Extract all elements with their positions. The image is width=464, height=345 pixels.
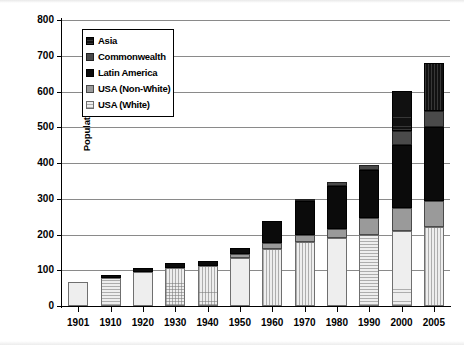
x-tick-1970 bbox=[305, 306, 306, 312]
y-axis-label-600: 600 bbox=[14, 87, 54, 97]
bar-segment-1930-usa-white bbox=[165, 268, 185, 306]
bar-segment-1910-usa-white bbox=[101, 278, 121, 306]
scan-edge-top bbox=[0, 0, 464, 3]
bar-segment-1940-latin-america bbox=[198, 261, 218, 266]
scan-edge-bottom bbox=[0, 341, 464, 345]
bar-segment-1980-usa-non-white bbox=[327, 229, 347, 238]
bar-segment-1910-latin-america bbox=[101, 275, 121, 278]
gridline-800 bbox=[62, 20, 450, 21]
legend-swatch-icon bbox=[86, 101, 94, 109]
bar-segment-2005-latin-america bbox=[424, 127, 444, 200]
y-axis-label-300: 300 bbox=[14, 194, 54, 204]
x-tick-1920 bbox=[143, 306, 144, 312]
bar-segment-2005-commonwealth bbox=[424, 111, 444, 127]
bar-segment-1960-usa-white bbox=[262, 249, 282, 306]
stacked-bar-chart: Population in millions 01002003004005006… bbox=[0, 0, 464, 345]
bar-segment-1940-usa-white bbox=[198, 266, 218, 306]
bar-1920[interactable] bbox=[133, 268, 153, 306]
legend-item-label: Latin America bbox=[98, 68, 157, 78]
bar-segment-2000-usa-white bbox=[392, 231, 412, 306]
bar-segment-1930-latin-america bbox=[165, 263, 185, 267]
bar-segment-1990-commonwealth bbox=[359, 165, 379, 170]
bar-segment-2000-asia bbox=[392, 91, 412, 131]
bar-segment-1950-usa-white bbox=[230, 258, 250, 306]
x-tick-1990 bbox=[369, 306, 370, 312]
legend-item-label: USA (White) bbox=[98, 100, 150, 110]
x-tick-1980 bbox=[337, 306, 338, 312]
bar-segment-2000-latin-america bbox=[392, 145, 412, 208]
x-tick-1940 bbox=[208, 306, 209, 312]
bar-segment-1950-latin-america bbox=[230, 248, 250, 254]
bar-segment-1980-commonwealth bbox=[327, 182, 347, 186]
bar-segment-1970-usa-non-white bbox=[295, 235, 315, 241]
y-axis-label-400: 400 bbox=[14, 158, 54, 168]
bar-1940[interactable] bbox=[198, 261, 218, 306]
bar-1950[interactable] bbox=[230, 248, 250, 306]
bar-1970[interactable] bbox=[295, 199, 315, 306]
x-tick-2000 bbox=[402, 306, 403, 312]
bar-segment-1990-latin-america bbox=[359, 170, 379, 218]
gridline-0 bbox=[62, 306, 450, 307]
bar-segment-1970-latin-america bbox=[295, 201, 315, 235]
bar-segment-1970-usa-white bbox=[295, 242, 315, 306]
bar-segment-1990-usa-non-white bbox=[359, 218, 379, 234]
legend-item-asia[interactable]: Asia bbox=[86, 33, 169, 49]
bar-segment-1980-latin-america bbox=[327, 186, 347, 229]
legend-item-usa-white[interactable]: USA (White) bbox=[86, 97, 169, 113]
bar-1901[interactable] bbox=[68, 282, 88, 306]
y-tick-700 bbox=[57, 56, 62, 57]
x-tick-2005 bbox=[434, 306, 435, 312]
bar-segment-2000-commonwealth bbox=[392, 131, 412, 145]
legend-swatch-icon bbox=[86, 37, 94, 45]
y-tick-800 bbox=[57, 20, 62, 21]
y-tick-300 bbox=[57, 199, 62, 200]
bar-segment-1920-latin-america bbox=[133, 268, 153, 272]
bar-2005[interactable] bbox=[424, 63, 444, 306]
x-tick-1930 bbox=[175, 306, 176, 312]
x-tick-1901 bbox=[78, 306, 79, 312]
bar-segment-1970-commonwealth bbox=[295, 199, 315, 201]
legend-item-usa-non-white[interactable]: USA (Non-White) bbox=[86, 81, 169, 97]
y-tick-400 bbox=[57, 163, 62, 164]
y-axis-label-100: 100 bbox=[14, 265, 54, 275]
bar-1910[interactable] bbox=[101, 275, 121, 306]
y-axis-label-0: 0 bbox=[14, 301, 54, 311]
legend-item-label: USA (Non-White) bbox=[98, 84, 170, 94]
y-tick-100 bbox=[57, 270, 62, 271]
legend-item-latin-america[interactable]: Latin America bbox=[86, 65, 169, 81]
bar-segment-2000-usa-non-white bbox=[392, 208, 412, 231]
bar-segment-1960-latin-america bbox=[262, 221, 282, 244]
legend-item-label: Commonwealth bbox=[98, 52, 166, 62]
bar-segment-1901-usa-white bbox=[68, 282, 88, 306]
legend-item-commonwealth[interactable]: Commonwealth bbox=[86, 49, 169, 65]
y-axis-label-700: 700 bbox=[14, 51, 54, 61]
legend-swatch-icon bbox=[86, 69, 94, 77]
y-tick-0 bbox=[57, 306, 62, 307]
bar-segment-2005-usa-white bbox=[424, 227, 444, 306]
x-tick-1950 bbox=[240, 306, 241, 312]
bar-1960[interactable] bbox=[262, 221, 282, 306]
bar-segment-2005-asia bbox=[424, 63, 444, 111]
bar-segment-1950-usa-non-white bbox=[230, 254, 250, 258]
legend-swatch-icon bbox=[86, 85, 94, 93]
x-tick-1960 bbox=[272, 306, 273, 312]
y-tick-200 bbox=[57, 235, 62, 236]
y-axis-label-200: 200 bbox=[14, 230, 54, 240]
legend-swatch-icon bbox=[86, 53, 94, 61]
bar-segment-1960-usa-non-white bbox=[262, 243, 282, 248]
bar-segment-2005-usa-non-white bbox=[424, 201, 444, 228]
bar-1930[interactable] bbox=[165, 263, 185, 306]
y-tick-600 bbox=[57, 92, 62, 93]
bar-1980[interactable] bbox=[327, 182, 347, 306]
y-axis-label-800: 800 bbox=[14, 15, 54, 25]
y-tick-500 bbox=[57, 127, 62, 128]
bar-segment-1990-usa-white bbox=[359, 235, 379, 307]
bar-segment-1980-usa-white bbox=[327, 238, 347, 306]
bar-segment-1920-usa-white bbox=[133, 272, 153, 306]
chart-legend: AsiaCommonwealthLatin AmericaUSA (Non-Wh… bbox=[82, 29, 174, 117]
bar-2000[interactable] bbox=[392, 91, 412, 306]
legend-item-label: Asia bbox=[98, 36, 117, 46]
x-axis-label-2005: 2005 bbox=[412, 317, 456, 328]
bar-1990[interactable] bbox=[359, 165, 379, 306]
x-tick-1910 bbox=[111, 306, 112, 312]
